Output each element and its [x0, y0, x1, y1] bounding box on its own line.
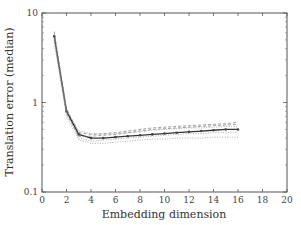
data-marker: [77, 133, 80, 136]
series-line: [54, 40, 238, 136]
series-line: [54, 38, 238, 134]
x-tick-label: 2: [64, 195, 70, 205]
x-tick-label: 14: [208, 195, 220, 205]
x-tick-label: 10: [159, 195, 171, 205]
data-marker: [90, 137, 93, 140]
data-series: [53, 32, 239, 144]
series-line: [54, 34, 238, 141]
x-tick-label: 4: [88, 195, 94, 205]
x-tick-label: 0: [39, 195, 45, 205]
x-tick-label: 18: [257, 195, 269, 205]
data-marker: [163, 132, 166, 135]
y-tick-label: 1: [32, 98, 38, 108]
x-tick-label: 16: [232, 195, 244, 205]
x-tick-label: 12: [183, 195, 194, 205]
data-marker: [102, 137, 105, 140]
line-chart: 024681012141618200.1110 Embedding dimens…: [0, 0, 301, 225]
x-tick-label: 6: [113, 195, 119, 205]
axis-ticks: 024681012141618200.1110: [24, 8, 293, 205]
data-marker: [188, 131, 191, 134]
series-line: [54, 32, 238, 135]
data-marker: [126, 135, 129, 138]
data-marker: [200, 130, 203, 133]
x-tick-label: 20: [281, 195, 293, 205]
x-axis-label: Embedding dimension: [102, 208, 227, 221]
plot-frame: [42, 13, 287, 192]
data-marker: [151, 133, 154, 136]
y-tick-label: 0.1: [24, 187, 38, 197]
data-marker: [114, 136, 117, 139]
data-marker: [224, 128, 227, 131]
data-marker: [237, 128, 240, 131]
x-tick-label: 8: [137, 195, 143, 205]
y-tick-label: 10: [27, 8, 39, 18]
data-marker: [212, 129, 215, 132]
data-marker: [175, 131, 178, 134]
data-marker: [139, 134, 142, 137]
series-line: [54, 43, 238, 143]
series-line: [54, 36, 238, 138]
y-axis-label: Translation error (median): [3, 27, 16, 176]
